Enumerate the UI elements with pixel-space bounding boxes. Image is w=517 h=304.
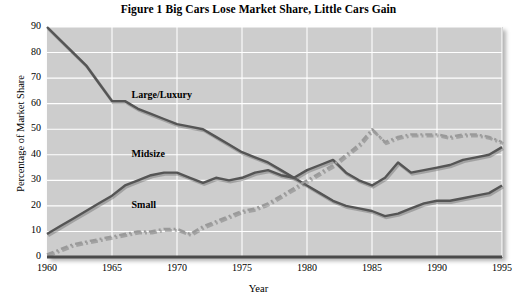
- x-tick-label: 1980: [277, 262, 337, 273]
- x-tick-label: 1985: [342, 262, 402, 273]
- x-tick-label: 1970: [147, 262, 207, 273]
- series-label-small: Small: [132, 199, 156, 210]
- x-axis-label: Year: [0, 283, 517, 294]
- y-tick-label: 60: [7, 97, 41, 108]
- chart-title: Figure 1 Big Cars Lose Market Share, Lit…: [0, 3, 517, 15]
- gridlines: [47, 27, 502, 257]
- series-line-shadow-0: [48, 29, 503, 218]
- y-tick-label: 10: [7, 224, 41, 235]
- y-tick-label: 30: [7, 173, 41, 184]
- series-label-large-luxury: Large/Luxury: [132, 89, 193, 100]
- x-tick-label: 1995: [472, 262, 517, 273]
- plot-svg: [47, 27, 502, 257]
- figure-container: Figure 1 Big Cars Lose Market Share, Lit…: [0, 0, 517, 304]
- y-tick-label: 50: [7, 122, 41, 133]
- series-label-midsize: Midsize: [132, 148, 165, 159]
- series-line-midsize: [47, 147, 502, 234]
- y-tick-label: 40: [7, 148, 41, 159]
- y-tick-label: 70: [7, 71, 41, 82]
- x-tick-label: 1975: [212, 262, 272, 273]
- y-tick-label: 20: [7, 199, 41, 210]
- series-paths: [47, 27, 503, 257]
- series-line-large-luxury: [47, 27, 502, 216]
- y-tick-label: 80: [7, 46, 41, 57]
- plot-wrapper: 0102030405060708090 19601965197019751980…: [47, 27, 502, 257]
- x-tick-label: 1960: [17, 262, 77, 273]
- x-tick-label: 1965: [82, 262, 142, 273]
- x-tick-label: 1990: [407, 262, 467, 273]
- y-tick-label: 90: [7, 20, 41, 31]
- y-tick-label: 0: [7, 250, 41, 261]
